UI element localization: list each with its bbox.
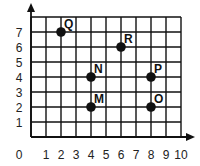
y-tick-label: 5: [16, 56, 23, 70]
point-q: Q: [56, 17, 73, 37]
y-tick-label: 6: [16, 41, 23, 55]
y-tick-label: 3: [16, 86, 23, 100]
point-label: N: [94, 62, 103, 76]
y-tick-label: 7: [16, 26, 23, 40]
point-p: P: [146, 62, 162, 82]
point-label: R: [124, 32, 133, 46]
x-tick-label: 6: [118, 148, 125, 162]
x-tick-label: 2: [58, 148, 65, 162]
point-m: M: [86, 92, 104, 112]
x-tick-label: 1: [43, 148, 50, 162]
x-tick-label: 5: [103, 148, 110, 162]
point-label: O: [154, 92, 163, 106]
coordinate-grid-chart: 012345678910 1234567 QRNPMO: [0, 0, 200, 166]
x-tick-label: 8: [148, 148, 155, 162]
point-label: Q: [64, 17, 73, 31]
x-tick-label: 0: [16, 148, 23, 162]
point-o: O: [146, 92, 163, 112]
y-axis-arrow-icon: [27, 3, 35, 12]
y-tick-label: 1: [16, 116, 23, 130]
x-tick-label: 3: [73, 148, 80, 162]
x-tick-label: 7: [133, 148, 140, 162]
y-tick-label: 4: [16, 71, 23, 85]
grid-lines: [31, 17, 181, 137]
x-tick-label: 9: [163, 148, 170, 162]
y-axis-tick-labels: 1234567: [16, 26, 23, 130]
point-label: P: [154, 62, 162, 76]
x-axis-tick-labels: 012345678910: [16, 148, 188, 162]
y-tick-label: 2: [16, 101, 23, 115]
point-label: M: [94, 92, 104, 106]
point-r: R: [116, 32, 133, 52]
axes: [27, 3, 195, 141]
x-tick-label: 10: [174, 148, 188, 162]
x-axis-arrow-icon: [186, 133, 195, 141]
point-n: N: [86, 62, 102, 82]
x-tick-label: 4: [88, 148, 95, 162]
data-points: QRNPMO: [56, 17, 163, 112]
